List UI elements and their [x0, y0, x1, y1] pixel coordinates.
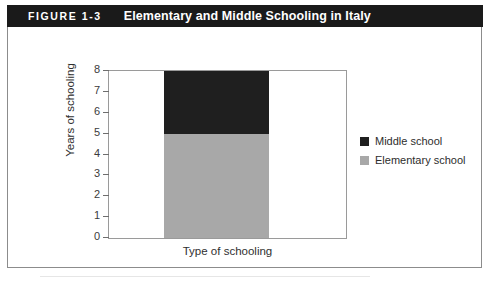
figure-title: Elementary and Middle Schooling in Italy	[124, 9, 371, 23]
scan-artifact-line	[40, 276, 370, 277]
legend-swatch-middle-school	[360, 137, 369, 146]
x-axis-title: Type of schooling	[108, 245, 347, 257]
y-tick-3: 3	[103, 174, 109, 175]
y-tick-label: 2	[94, 188, 100, 201]
y-tick-label: 1	[94, 209, 100, 222]
y-tick-mark	[103, 216, 109, 217]
chart-area: 8 7 6 5 4 3 2	[7, 27, 482, 268]
y-tick-mark	[103, 195, 109, 196]
y-tick-label: 7	[94, 84, 100, 97]
stacked-bar[interactable]	[164, 71, 269, 238]
y-axis-title: Years of schooling	[64, 35, 76, 185]
y-tick-0: 0	[103, 237, 109, 238]
y-tick-5: 5	[103, 133, 109, 134]
bar-segment-middle-school[interactable]	[164, 71, 269, 134]
plot-frame	[108, 70, 347, 239]
y-tick-mark	[103, 174, 109, 175]
y-tick-label: 8	[94, 63, 100, 76]
y-tick-2: 2	[103, 195, 109, 196]
y-tick-mark	[103, 112, 109, 113]
y-tick-7: 7	[103, 91, 109, 92]
y-axis-ticks: 8 7 6 5 4 3 2	[103, 70, 109, 237]
y-tick-label: 3	[94, 167, 100, 180]
chart-legend: Middle school Elementary school	[360, 135, 466, 166]
y-tick-mark	[103, 133, 109, 134]
figure-header-bar: FIGURE 1-3 Elementary and Middle Schooli…	[7, 5, 483, 27]
legend-item-middle-school[interactable]: Middle school	[360, 135, 466, 147]
y-tick-label: 5	[94, 126, 100, 139]
y-tick-label: 6	[94, 105, 100, 118]
y-tick-mark	[103, 91, 109, 92]
y-tick-1: 1	[103, 216, 109, 217]
figure-number-label: FIGURE 1-3	[28, 10, 102, 22]
figure-root: FIGURE 1-3 Elementary and Middle Schooli…	[0, 0, 489, 285]
y-tick-mark	[103, 154, 109, 155]
legend-item-elementary-school[interactable]: Elementary school	[360, 154, 466, 166]
y-tick-mark	[103, 70, 109, 71]
y-tick-4: 4	[103, 154, 109, 155]
legend-swatch-elementary-school	[360, 156, 369, 165]
y-tick-label: 4	[94, 147, 100, 160]
bar-segment-elementary-school[interactable]	[164, 134, 269, 238]
y-tick-label: 0	[94, 230, 100, 243]
legend-label-elementary-school: Elementary school	[375, 154, 466, 166]
legend-label-middle-school: Middle school	[375, 135, 442, 147]
y-tick-mark	[103, 237, 109, 238]
y-tick-8: 8	[103, 70, 109, 71]
y-tick-6: 6	[103, 112, 109, 113]
